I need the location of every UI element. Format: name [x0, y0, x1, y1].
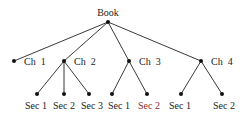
node-ch1	[12, 59, 16, 63]
label-ch4: Ch 4	[211, 56, 233, 67]
node-ch4-sec1	[179, 92, 183, 96]
node-ch2	[62, 59, 66, 63]
node-ch2-sec3	[87, 92, 91, 96]
node-ch3	[127, 59, 131, 63]
node-ch2-sec2	[62, 92, 66, 96]
node-ch2-sec1	[35, 92, 39, 96]
label-ch3-sec1: Sec 1	[108, 100, 130, 111]
label-ch3-sec2: Sec 2	[138, 100, 160, 111]
label-book: Book	[97, 7, 119, 18]
label-ch1: Ch 1	[24, 56, 46, 67]
label-ch2: Ch 2	[74, 56, 96, 67]
label-ch2-sec3: Sec 3	[81, 100, 103, 111]
node-ch3-sec2	[145, 92, 149, 96]
label-ch2-sec2: Sec 2	[53, 100, 75, 111]
node-book	[106, 20, 110, 24]
label-ch3: Ch 3	[139, 56, 161, 67]
edge-ch4-sec1	[181, 61, 201, 94]
label-ch4-sec1: Sec 1	[169, 100, 191, 111]
tree-labels: Book Ch 1 Ch 2 Ch 3 Ch 4 Sec 1 Sec 2 Sec…	[24, 7, 235, 111]
node-ch3-sec1	[110, 92, 114, 96]
label-ch4-sec2: Sec 2	[213, 100, 235, 111]
edge-book-ch3	[108, 22, 129, 61]
edge-ch3-sec1	[112, 61, 129, 94]
book-tree-diagram: Book Ch 1 Ch 2 Ch 3 Ch 4 Sec 1 Sec 2 Sec…	[0, 0, 246, 116]
node-ch4	[199, 59, 203, 63]
label-ch2-sec1: Sec 1	[25, 100, 47, 111]
node-ch4-sec2	[220, 92, 224, 96]
